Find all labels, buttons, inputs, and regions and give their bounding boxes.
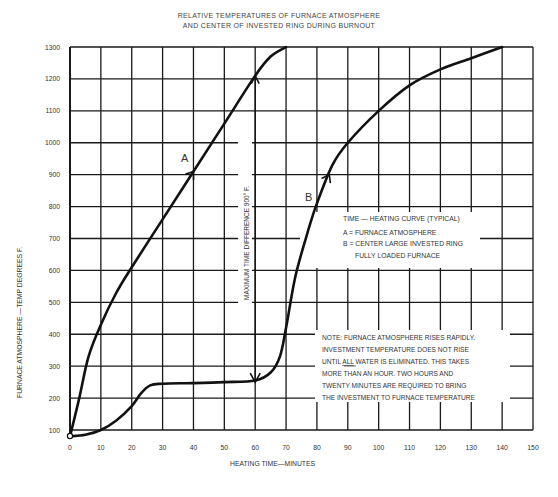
note-line-2: INVESTMENT TEMPERATURE DOES NOT RISE [322,346,469,353]
note-line-5: TWENTY MINUTES ARE REQUIRED TO BRING [322,382,466,390]
x-tick-label: 20 [128,444,136,451]
x-tick-label: 50 [221,444,229,451]
x-tick-label: 110 [404,444,415,451]
y-tick-label: 900 [49,171,61,178]
y-tick-label: 1000 [45,139,60,146]
x-tick-label: 0 [68,444,72,451]
note-line-4: MORE THAN AN HOUR. TWO HOURS AND [322,370,454,377]
x-tick-label: 70 [282,444,290,451]
origin-marker [67,433,72,438]
y-tick-label: 500 [49,299,61,306]
x-tick-label: 120 [435,444,447,451]
x-tick-label: 80 [313,444,321,451]
note-line-1: NOTE: FURNACE ATMOSPHERE RISES RAPIDLY. [322,334,475,341]
note-line-3: UNTIL ALL WATER IS ELIMINATED. THIS TAKE… [322,358,470,365]
legend-title: TIME — HEATING CURVE (TYPICAL) [343,215,460,223]
x-tick-label: 130 [466,444,478,451]
y-tick-label: 800 [49,203,61,210]
x-tick-label: 140 [496,444,508,451]
chart-canvas: 1002003004005006007008009001000110012001… [0,0,558,497]
x-axis-label: HEATING TIME—MINUTES [230,460,316,467]
x-tick-label: 10 [97,444,105,451]
y-tick-label: 100 [49,427,61,434]
y-tick-label: 1300 [45,44,60,51]
x-tick-label: 30 [159,444,167,451]
y-tick-label: 200 [49,395,61,402]
x-tick-label: 100 [373,444,385,451]
y-tick-label: 1100 [45,107,60,114]
x-tick-label: 150 [527,444,539,451]
x-tick-label: 60 [251,444,259,451]
note-line-6: THE INVESTMENT TO FURNACE TEMPERATURE [322,394,475,401]
legend-item-a: A = FURNACE ATMOSPHERE [343,229,437,236]
curve-b-label: B [305,191,312,203]
y-tick-label: 600 [49,267,61,274]
y-tick-label: 700 [49,235,61,242]
x-tick-label: 90 [344,444,352,451]
x-axis-ticks: 0102030405060708090100110120130140150 [68,444,539,451]
max-diff-label: MAXIMUM TIME DIFFERENCE 900° F. [243,186,250,300]
y-axis-ticks: 1002003004005006007008009001000110012001… [45,44,60,434]
y-tick-label: 300 [49,363,61,370]
y-axis-label: FURNACE ATMOSPHERE —TEMP DEGREES F. [16,247,23,398]
y-tick-label: 1200 [45,75,60,82]
legend-item-b-cont: FULLY LOADED FURNACE [355,252,441,259]
legend-item-b: B = CENTER LARGE INVESTED RING [343,240,463,247]
curve-a-label: A [181,152,189,164]
x-tick-label: 40 [190,444,198,451]
y-tick-label: 400 [49,331,61,338]
